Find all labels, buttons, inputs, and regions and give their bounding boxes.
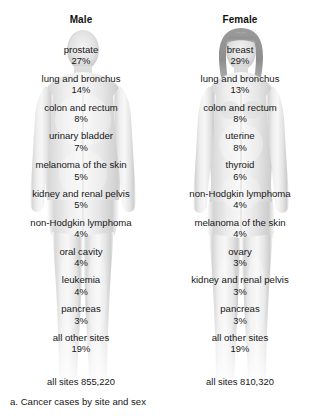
site-name: lung and bronchus bbox=[161, 73, 319, 84]
site-percentage: 3% bbox=[161, 257, 319, 268]
site-percentage: 29% bbox=[161, 55, 319, 66]
site-percentage: 8% bbox=[2, 113, 160, 124]
site-entry: pancreas3% bbox=[161, 303, 319, 326]
female-column-heading: Female bbox=[161, 14, 319, 25]
site-percentage: 8% bbox=[161, 142, 319, 153]
site-name: pancreas bbox=[2, 303, 160, 314]
site-percentage: 19% bbox=[2, 343, 160, 354]
site-entry: thyroid6% bbox=[161, 159, 319, 182]
site-name: urinary bladder bbox=[2, 130, 160, 141]
site-percentage: 5% bbox=[2, 171, 160, 182]
site-name: ovary bbox=[161, 246, 319, 257]
site-percentage: 27% bbox=[2, 55, 160, 66]
site-percentage: 3% bbox=[161, 286, 319, 297]
site-entry: leukemia4% bbox=[2, 274, 160, 297]
site-percentage: 4% bbox=[161, 228, 319, 239]
male-site-list: prostate27%lung and bronchus14%colon and… bbox=[2, 44, 160, 361]
site-entry: pancreas3% bbox=[2, 303, 160, 326]
site-entry: colon and rectum8% bbox=[161, 102, 319, 125]
site-entry: kidney and renal pelvis5% bbox=[2, 188, 160, 211]
figure-caption: a. Cancer cases by site and sex bbox=[10, 396, 146, 408]
site-entry: melanoma of the skin4% bbox=[161, 217, 319, 240]
site-name: all other sites bbox=[2, 332, 160, 343]
site-entry: all other sites19% bbox=[2, 332, 160, 355]
site-name: thyroid bbox=[161, 159, 319, 170]
site-name: all other sites bbox=[161, 332, 319, 343]
site-entry: non-Hodgkin lymphoma4% bbox=[2, 217, 160, 240]
site-percentage: 4% bbox=[2, 228, 160, 239]
site-name: colon and rectum bbox=[161, 102, 319, 113]
female-column: Female breast29%lung and bronchus13%colo… bbox=[161, 0, 319, 416]
male-column-heading: Male bbox=[2, 14, 160, 25]
site-entry: colon and rectum8% bbox=[2, 102, 160, 125]
site-name: uterine bbox=[161, 130, 319, 141]
female-total-line: all sites 810,320 bbox=[161, 376, 319, 387]
site-name: leukemia bbox=[2, 274, 160, 285]
female-site-list: breast29%lung and bronchus13%colon and r… bbox=[161, 44, 319, 361]
site-percentage: 4% bbox=[161, 199, 319, 210]
site-entry: lung and bronchus13% bbox=[161, 73, 319, 96]
site-percentage: 7% bbox=[2, 142, 160, 153]
site-percentage: 5% bbox=[2, 199, 160, 210]
site-name: prostate bbox=[2, 44, 160, 55]
cancer-cases-figure: Male prostate27%lung and bronchus14%colo… bbox=[0, 0, 321, 416]
site-name: non-Hodgkin lymphoma bbox=[161, 188, 319, 199]
site-percentage: 14% bbox=[2, 84, 160, 95]
site-entry: lung and bronchus14% bbox=[2, 73, 160, 96]
site-name: kidney and renal pelvis bbox=[2, 188, 160, 199]
site-entry: all other sites19% bbox=[161, 332, 319, 355]
site-entry: ovary3% bbox=[161, 246, 319, 269]
site-name: oral cavity bbox=[2, 246, 160, 257]
site-name: melanoma of the skin bbox=[161, 217, 319, 228]
site-entry: uterine8% bbox=[161, 130, 319, 153]
site-entry: urinary bladder7% bbox=[2, 130, 160, 153]
site-entry: oral cavity4% bbox=[2, 246, 160, 269]
site-name: lung and bronchus bbox=[2, 73, 160, 84]
male-column: Male prostate27%lung and bronchus14%colo… bbox=[2, 0, 160, 416]
site-percentage: 13% bbox=[161, 84, 319, 95]
site-name: non-Hodgkin lymphoma bbox=[2, 217, 160, 228]
site-percentage: 8% bbox=[161, 113, 319, 124]
site-entry: prostate27% bbox=[2, 44, 160, 67]
site-entry: melanoma of the skin5% bbox=[2, 159, 160, 182]
site-name: breast bbox=[161, 44, 319, 55]
site-entry: breast29% bbox=[161, 44, 319, 67]
site-entry: non-Hodgkin lymphoma4% bbox=[161, 188, 319, 211]
site-name: melanoma of the skin bbox=[2, 159, 160, 170]
site-percentage: 4% bbox=[2, 257, 160, 268]
site-percentage: 19% bbox=[161, 343, 319, 354]
site-name: kidney and renal pelvis bbox=[161, 274, 319, 285]
site-name: pancreas bbox=[161, 303, 319, 314]
male-total-line: all sites 855,220 bbox=[2, 376, 160, 387]
site-percentage: 3% bbox=[2, 315, 160, 326]
site-percentage: 4% bbox=[2, 286, 160, 297]
site-entry: kidney and renal pelvis3% bbox=[161, 274, 319, 297]
site-name: colon and rectum bbox=[2, 102, 160, 113]
site-percentage: 3% bbox=[161, 315, 319, 326]
site-percentage: 6% bbox=[161, 171, 319, 182]
